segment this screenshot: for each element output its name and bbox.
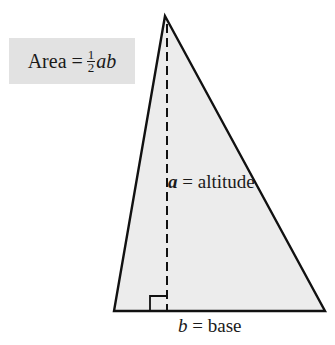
- base-variable: b: [178, 315, 188, 336]
- formula-prefix: Area =: [28, 50, 83, 73]
- altitude-variable: a: [168, 171, 178, 192]
- fraction-denominator: 2: [88, 62, 95, 74]
- altitude-label: a = altitude: [168, 171, 255, 193]
- area-formula: Area = 1 2 ab: [9, 38, 135, 84]
- triangle: [114, 16, 325, 311]
- base-text: = base: [192, 315, 241, 336]
- altitude-text: = altitude: [182, 171, 254, 192]
- base-label: b = base: [178, 315, 241, 337]
- formula-suffix: ab: [96, 50, 116, 73]
- fraction-one-half: 1 2: [87, 49, 96, 74]
